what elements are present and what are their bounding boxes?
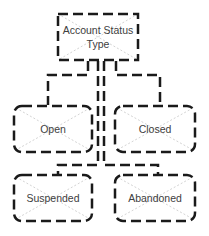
node-abandoned[interactable]: Abandoned [114, 174, 196, 222]
node-closed[interactable]: Closed [114, 105, 196, 153]
node-label: Abandoned [114, 174, 196, 222]
node-suspended[interactable]: Suspended [13, 174, 93, 222]
node-label: Suspended [13, 174, 93, 222]
node-label: Open [13, 105, 93, 153]
node-label: Closed [114, 105, 196, 153]
node-account-status-type[interactable]: Account Status Type [57, 13, 139, 61]
node-open[interactable]: Open [13, 105, 93, 153]
edge-root-open [48, 61, 88, 105]
node-label: Account Status Type [57, 13, 139, 61]
edge-root-closed [116, 61, 160, 105]
